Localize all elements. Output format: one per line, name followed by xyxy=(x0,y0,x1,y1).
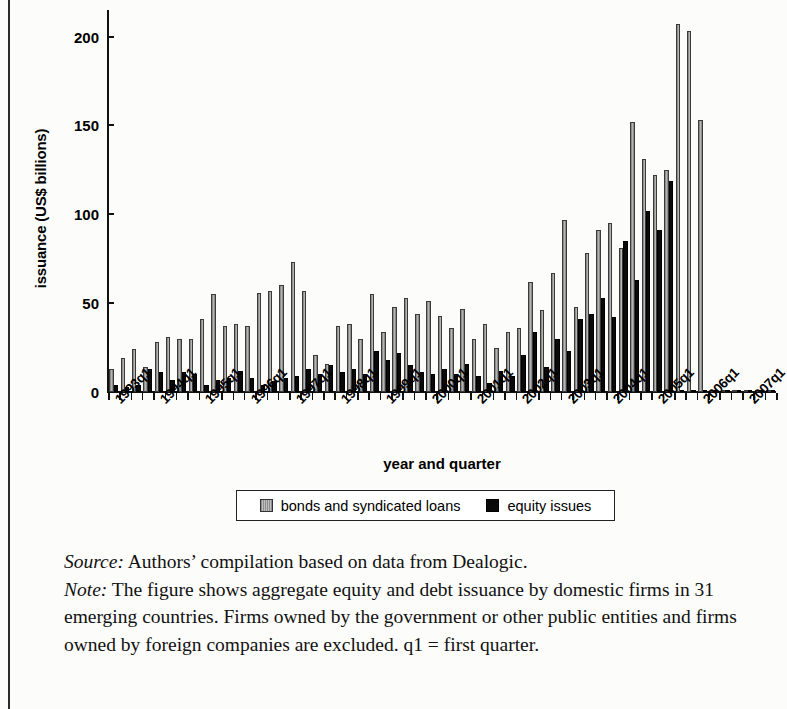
bar-equity xyxy=(657,230,661,392)
caption-note-text: The figure shows aggregate equity and de… xyxy=(64,579,737,655)
x-axis-labels: 1993q11994q11995q11996q11997q11998q11999… xyxy=(108,396,776,456)
caption-source-lead: Source: xyxy=(64,551,124,572)
quarter-bar-group xyxy=(278,10,289,392)
x-axis-title: year and quarter xyxy=(108,455,776,472)
quarter-bar-group xyxy=(380,10,391,392)
caption-source-line: Source: Authors’ compilation based on da… xyxy=(64,548,754,576)
bar-equity xyxy=(691,390,695,392)
quarter-bar-group xyxy=(108,10,119,392)
quarter-bar-group xyxy=(765,10,776,392)
quarter-bar-group xyxy=(606,10,617,392)
quarter-bar-group xyxy=(233,10,244,392)
bar-equity xyxy=(612,317,616,392)
quarter-bar-group xyxy=(493,10,504,392)
bar-bonds xyxy=(211,294,215,392)
bar-series-container xyxy=(108,10,776,392)
quarter-bar-group xyxy=(176,10,187,392)
quarter-bar-group xyxy=(629,10,640,392)
figure: issuance (US$ billions) 050100150200 199… xyxy=(0,0,787,540)
bar-bonds xyxy=(291,262,295,392)
quarter-bar-group xyxy=(663,10,674,392)
caption-note-lead: Note: xyxy=(64,579,107,600)
bar-equity xyxy=(521,355,525,392)
legend-swatch-equity-icon xyxy=(486,499,499,512)
y-tick-label: 200 xyxy=(74,28,108,45)
bar-bonds xyxy=(676,24,680,392)
bar-equity xyxy=(386,360,390,392)
quarter-bar-group xyxy=(572,10,583,392)
quarter-bar-group xyxy=(504,10,515,392)
quarter-bar-group xyxy=(437,10,448,392)
bar-equity xyxy=(555,339,559,392)
bar-equity xyxy=(623,241,627,392)
quarter-bar-group xyxy=(414,10,425,392)
bar-bonds xyxy=(200,319,204,392)
quarter-bar-group xyxy=(561,10,572,392)
caption-note-line: Note: The figure shows aggregate equity … xyxy=(64,576,754,659)
quarter-bar-group xyxy=(255,10,266,392)
bar-bonds xyxy=(257,293,261,392)
quarter-bar-group xyxy=(652,10,663,392)
legend-label-bonds: bonds and syndicated loans xyxy=(281,498,461,514)
quarter-bar-group xyxy=(323,10,334,392)
y-tick-label: 150 xyxy=(74,117,108,134)
quarter-bar-group xyxy=(459,10,470,392)
y-tick-label: 100 xyxy=(74,206,108,223)
bar-bonds xyxy=(687,31,691,392)
quarter-bar-group xyxy=(731,10,742,392)
quarter-bar-group xyxy=(267,10,278,392)
quarter-bar-group xyxy=(686,10,697,392)
quarter-bar-group xyxy=(618,10,629,392)
quarter-bar-group xyxy=(369,10,380,392)
legend-label-equity: equity issues xyxy=(507,498,591,514)
quarter-bar-group xyxy=(142,10,153,392)
quarter-bar-group xyxy=(312,10,323,392)
quarter-bar-group xyxy=(119,10,130,392)
quarter-bar-group xyxy=(482,10,493,392)
legend-swatch-bonds-icon xyxy=(260,499,273,512)
quarter-bar-group xyxy=(538,10,549,392)
quarter-bar-group xyxy=(357,10,368,392)
quarter-bar-group xyxy=(165,10,176,392)
quarter-bar-group xyxy=(221,10,232,392)
quarter-bar-group xyxy=(516,10,527,392)
figure-caption: Source: Authors’ compilation based on da… xyxy=(64,548,754,659)
quarter-bar-group xyxy=(527,10,538,392)
bar-equity xyxy=(737,390,741,392)
x-tick-mark xyxy=(776,393,778,400)
quarter-bar-group xyxy=(391,10,402,392)
quarter-bar-group xyxy=(131,10,142,392)
quarter-bar-group xyxy=(471,10,482,392)
quarter-bar-group xyxy=(425,10,436,392)
quarter-bar-group xyxy=(720,10,731,392)
legend-item-equity: equity issues xyxy=(486,498,591,514)
bar-equity xyxy=(567,351,571,392)
quarter-bar-group xyxy=(584,10,595,392)
quarter-bar-group xyxy=(697,10,708,392)
page-canvas: issuance (US$ billions) 050100150200 199… xyxy=(0,0,787,709)
plot-area: 050100150200 xyxy=(108,10,776,392)
y-tick-label: 50 xyxy=(82,295,108,312)
quarter-bar-group xyxy=(210,10,221,392)
y-axis-title: issuance (US$ billions) xyxy=(32,59,49,359)
bar-equity xyxy=(646,211,650,392)
caption-source-text: Authors’ compilation based on data from … xyxy=(124,551,528,572)
quarter-bar-group xyxy=(403,10,414,392)
quarter-bar-group xyxy=(335,10,346,392)
quarter-bar-group xyxy=(754,10,765,392)
quarter-bar-group xyxy=(199,10,210,392)
quarter-bar-group xyxy=(595,10,606,392)
quarter-bar-group xyxy=(187,10,198,392)
quarter-bar-group xyxy=(640,10,651,392)
quarter-bar-group xyxy=(742,10,753,392)
quarter-bar-group xyxy=(153,10,164,392)
quarter-bar-group xyxy=(550,10,561,392)
quarter-bar-group xyxy=(244,10,255,392)
quarter-bar-group xyxy=(708,10,719,392)
quarter-bar-group xyxy=(674,10,685,392)
quarter-bar-group xyxy=(289,10,300,392)
bar-bonds xyxy=(698,120,702,392)
y-tick-label: 0 xyxy=(91,384,108,401)
bar-equity xyxy=(669,181,673,392)
quarter-bar-group xyxy=(346,10,357,392)
